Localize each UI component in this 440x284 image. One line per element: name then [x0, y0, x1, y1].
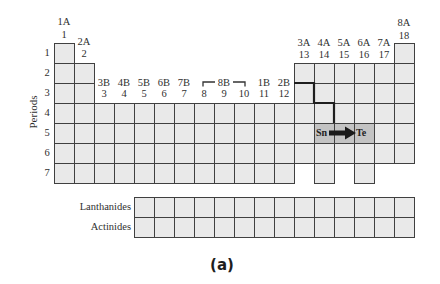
element-cell — [74, 83, 95, 104]
lanthanide-cell — [374, 197, 395, 218]
element-cell — [314, 103, 335, 124]
period-1-label: 1 — [41, 47, 53, 59]
element-cell — [214, 103, 235, 124]
element-te-label: Te — [356, 127, 366, 139]
actinides-label: Actinides — [91, 221, 131, 233]
element-cell — [174, 123, 195, 144]
period-5-label: 5 — [41, 127, 53, 139]
element-cell — [314, 143, 335, 164]
period-6-label: 6 — [41, 147, 53, 159]
element-cell — [374, 123, 395, 144]
lanthanide-cell — [274, 197, 295, 218]
element-cell — [194, 103, 215, 124]
element-cell — [94, 143, 115, 164]
actinide-cell — [154, 217, 175, 238]
element-cell — [74, 143, 95, 164]
period-7-label: 7 — [41, 167, 53, 179]
element-cell — [214, 123, 235, 144]
element-cell — [374, 143, 395, 164]
element-cell — [354, 163, 375, 184]
element-cell — [294, 123, 315, 144]
element-cell — [214, 143, 235, 164]
element-cell — [394, 123, 415, 144]
element-cell — [274, 103, 295, 124]
lanthanide-cell — [354, 197, 375, 218]
lanthanide-cell — [154, 197, 175, 218]
group-1-old-label: 1A — [50, 16, 78, 28]
element-cell — [374, 103, 395, 124]
element-cell — [354, 63, 375, 84]
period-3-label: 3 — [41, 87, 53, 99]
element-cell — [374, 83, 395, 104]
element-cell — [114, 163, 135, 184]
element-cell — [74, 103, 95, 124]
element-cell — [314, 163, 335, 184]
period-4-label: 4 — [41, 107, 53, 119]
element-cell — [154, 103, 175, 124]
element-cell — [334, 83, 355, 104]
element-cell — [194, 123, 215, 144]
element-cell — [134, 103, 155, 124]
lanthanide-cell — [394, 197, 415, 218]
actinide-cell — [254, 217, 275, 238]
element-cell — [294, 83, 315, 104]
element-cell — [394, 63, 415, 84]
element-cell — [314, 63, 335, 84]
element-cell — [354, 143, 375, 164]
lanthanide-cell — [234, 197, 255, 218]
element-cell — [234, 123, 255, 144]
element-cell — [114, 143, 135, 164]
element-cell — [334, 103, 355, 124]
element-cell — [394, 143, 415, 164]
actinide-cell — [394, 217, 415, 238]
lanthanide-cell — [334, 197, 355, 218]
element-cell — [214, 163, 235, 184]
element-cell — [174, 163, 195, 184]
element-cell — [114, 103, 135, 124]
element-cell — [354, 103, 375, 124]
actinide-cell — [214, 217, 235, 238]
element-cell — [274, 123, 295, 144]
element-cell — [394, 83, 415, 104]
element-cell — [234, 143, 255, 164]
element-cell — [314, 83, 335, 104]
element-cell — [154, 123, 175, 144]
element-cell — [254, 163, 275, 184]
group-18-new-label: 18 — [390, 30, 418, 42]
element-cell — [74, 163, 95, 184]
actinide-cell — [274, 217, 295, 238]
lanthanide-cell — [174, 197, 195, 218]
element-cell — [254, 103, 275, 124]
element-cell — [154, 143, 175, 164]
element-cell — [374, 63, 395, 84]
element-cell — [134, 163, 155, 184]
lanthanide-cell — [254, 197, 275, 218]
element-cell — [254, 143, 275, 164]
element-cell — [394, 103, 415, 124]
actinide-cell — [374, 217, 395, 238]
element-cell — [274, 163, 295, 184]
figure-label: (a) — [210, 256, 234, 274]
element-cell — [134, 143, 155, 164]
actinide-cell — [354, 217, 375, 238]
lanthanide-cell — [294, 197, 315, 218]
element-cell — [254, 123, 275, 144]
element-cell — [54, 143, 75, 164]
element-cell — [334, 123, 355, 144]
element-cell — [234, 163, 255, 184]
element-cell — [54, 103, 75, 124]
element-cell — [394, 43, 415, 64]
actinide-cell — [234, 217, 255, 238]
lanthanide-cell — [194, 197, 215, 218]
element-cell — [174, 103, 195, 124]
element-cell — [74, 63, 95, 84]
element-cell — [334, 143, 355, 164]
actinide-cell — [194, 217, 215, 238]
actinide-cell — [174, 217, 195, 238]
element-cell — [54, 83, 75, 104]
element-cell — [294, 143, 315, 164]
period-2-label: 2 — [41, 67, 53, 79]
element-cell — [94, 103, 115, 124]
lanthanide-cell — [314, 197, 335, 218]
element-cell — [154, 163, 175, 184]
